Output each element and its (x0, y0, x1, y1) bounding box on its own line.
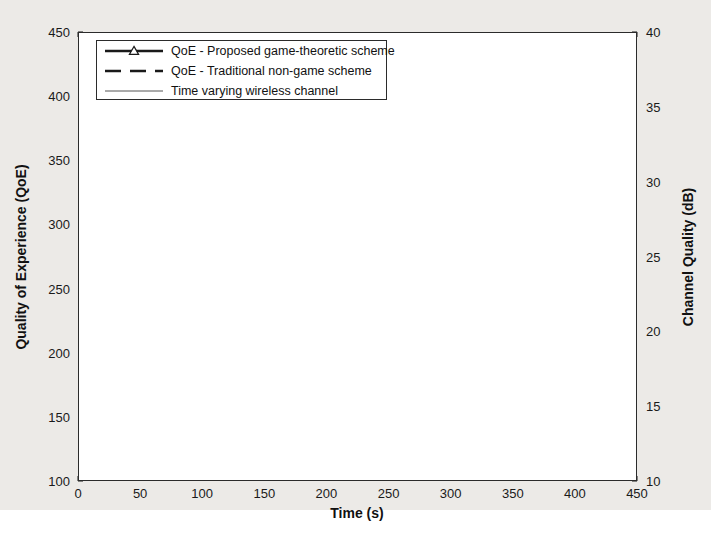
x-tick-label: 400 (564, 486, 586, 501)
x-tick-label: 0 (74, 486, 81, 501)
legend-item-channel[interactable]: Time varying wireless channel (97, 81, 386, 101)
legend-label-channel: Time varying wireless channel (171, 81, 338, 101)
x-tick-label: 200 (316, 486, 338, 501)
y-tick-label-left: 250 (48, 282, 70, 297)
y-tick-label-right: 40 (646, 25, 660, 40)
y-tick-label-left: 200 (48, 346, 70, 361)
y-tick-label-left: 400 (48, 89, 70, 104)
y-tick-label-left: 450 (48, 25, 70, 40)
legend-swatch-thin-line (103, 83, 165, 99)
y-tick-label-right: 25 (646, 250, 660, 265)
y-tick-label-right: 15 (646, 399, 660, 414)
x-tick-label: 100 (191, 486, 213, 501)
x-tick-label: 50 (133, 486, 147, 501)
y-tick-label-left: 300 (48, 217, 70, 232)
x-tick-label: 300 (440, 486, 462, 501)
y-tick-label-right: 35 (646, 100, 660, 115)
x-tick-label: 350 (502, 486, 524, 501)
legend-swatch-dashed (103, 63, 165, 79)
legend-label-traditional: QoE - Traditional non-game scheme (171, 61, 372, 81)
y-tick-label-right: 10 (646, 474, 660, 489)
y-tick-label-left: 150 (48, 410, 70, 425)
x-tick-label: 150 (253, 486, 275, 501)
legend-swatch-solid-thick-triangle (103, 43, 165, 59)
chart-legend[interactable]: QoE - Proposed game-theoretic scheme QoE… (96, 40, 387, 100)
legend-label-proposed: QoE - Proposed game-theoretic scheme (171, 41, 395, 61)
y-tick-label-right: 30 (646, 175, 660, 190)
legend-item-proposed[interactable]: QoE - Proposed game-theoretic scheme (97, 41, 386, 61)
legend-item-traditional[interactable]: QoE - Traditional non-game scheme (97, 61, 386, 81)
y-tick-label-left: 100 (48, 474, 70, 489)
y-tick-label-left: 350 (48, 153, 70, 168)
x-tick-label: 450 (626, 486, 648, 501)
y-tick-label-right: 20 (646, 324, 660, 339)
chart-figure: 0501001502002503003504004501001502002503… (0, 0, 711, 548)
x-tick-label: 250 (378, 486, 400, 501)
